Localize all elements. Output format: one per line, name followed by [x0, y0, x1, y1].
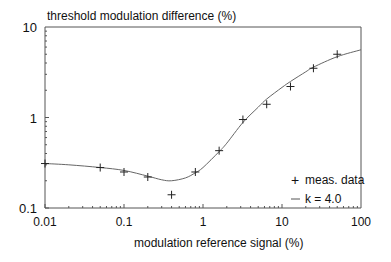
legend-item-k-4: k = 4.0	[291, 192, 342, 206]
plus-marker-icon	[333, 50, 341, 58]
plus-marker-icon	[215, 147, 223, 155]
y-tick-label: 0.1	[19, 201, 37, 216]
x-tick-label: 0.1	[116, 215, 133, 229]
y-axis-label: threshold modulation difference (%)	[47, 9, 236, 23]
x-tick-label: 100	[351, 215, 371, 229]
legend-label: meas. data	[305, 173, 365, 187]
chart: 0.010.11101000.1110 threshold modulation…	[0, 0, 391, 262]
plus-marker-icon	[120, 168, 128, 176]
legend-label: k = 4.0	[305, 192, 342, 206]
plus-marker-icon	[239, 116, 247, 124]
y-tick-label: 10	[23, 20, 37, 35]
plus-marker-icon	[168, 191, 176, 199]
x-tick-label: 0.01	[33, 215, 57, 229]
x-axis-label: modulation reference signal (%)	[134, 236, 303, 250]
x-tick-label: 1	[200, 215, 207, 229]
plus-marker-icon	[96, 164, 104, 172]
legend-item-meas-data: + meas. data	[291, 172, 365, 188]
plus-marker-icon	[144, 173, 152, 181]
y-tick-label: 1	[30, 111, 37, 126]
plus-marker-icon	[41, 160, 49, 168]
x-tick-label: 10	[275, 215, 289, 229]
plus-marker-icon: +	[291, 172, 299, 188]
legend: + meas. data k = 4.0	[291, 172, 365, 206]
